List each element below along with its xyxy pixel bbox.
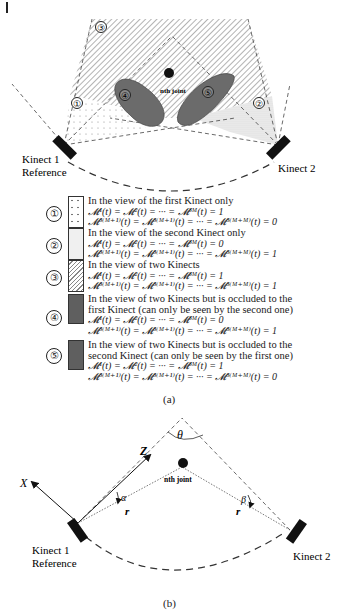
dark-swatch (68, 340, 84, 370)
legend-equation: 𝓜³⁽ᴹ⁺¹⁾(t) = 𝓜³⁽ᴹ⁺¹⁾(t) = ··· = 𝓜³⁽ᴹ⁺ᴹ⁾(… (88, 281, 277, 292)
kinect-2-label-b: Kinect 2 (293, 550, 331, 562)
legend-number: ③ (46, 270, 62, 286)
light-swatch (68, 228, 84, 260)
legend-equation: 𝓜³⁽ᴹ⁺¹⁾(t) = 𝓜³⁽ᴹ⁺¹⁾(t) = ··· = 𝓜³⁽ᴹ⁺ᴹ⁾(… (88, 326, 298, 337)
legend-description: In the view of the first Kinect only (88, 196, 277, 207)
legend-description: In the view of two Kinects but is occlud… (88, 294, 298, 315)
theta-label: θ (177, 428, 183, 442)
legend-item-5: ⑤ In the view of two Kinects but is occl… (46, 340, 336, 386)
region-3-label: ③ (97, 23, 105, 33)
region-1-label: ① (73, 99, 81, 109)
legend-item-1: ① In the view of the first Kinect only 𝓜… (46, 196, 336, 228)
region-2-label: ② (255, 99, 263, 109)
alpha-label: α (121, 492, 127, 503)
legend-item-3: ③ In the view of two Kinects 𝓜¹(t) = 𝓜²(… (46, 260, 336, 294)
kinect-arc-b (86, 533, 284, 570)
caption-a: (a) (163, 393, 175, 405)
region-4-label: ④ (121, 91, 129, 101)
figure-a-diagram: ③ ① ④ ⑤ ② nth joint Kinect 1 Reference K… (0, 0, 342, 195)
legend-number: ⑤ (46, 348, 62, 364)
joint-marker-b (178, 458, 188, 468)
kinect-arc (68, 162, 274, 191)
legend-number: ④ (46, 310, 62, 326)
legend: ① In the view of the first Kinect only 𝓜… (46, 196, 336, 386)
kinect-2-sensor-b (286, 519, 307, 544)
r-left-label: r (125, 505, 130, 517)
kinect-1-sensor-b (67, 518, 88, 543)
joint-marker (164, 68, 174, 78)
r-right-label: r (236, 505, 241, 517)
x-axis (32, 482, 78, 523)
dotted-swatch (68, 196, 84, 228)
legend-equation: 𝓜¹(t) = 𝓜²(t) = ··· = 𝓜³ᴹ(t) = 1 (88, 361, 298, 372)
legend-item-2: ② In the view of the second Kinect only … (46, 228, 336, 260)
legend-equation: 𝓜³⁽ᴹ⁺¹⁾(t) = 𝓜³⁽ᴹ⁺¹⁾(t) = ··· = 𝓜³⁽ᴹ⁺ᴹ⁾(… (88, 249, 277, 260)
figure-b-diagram: X Z θ α β r r nth joint Kinect 1 Referen… (0, 415, 342, 595)
z-axis (78, 455, 150, 523)
dark-swatch (68, 294, 84, 324)
x-axis-label: X (19, 476, 28, 490)
joint-label-b: nth joint (164, 475, 192, 484)
hatched-swatch (68, 260, 84, 292)
kinect-2-label-a: Kinect 2 (278, 162, 316, 174)
legend-equation: 𝓜¹(t) = 𝓜²(t) = ··· = 𝓜³ᴹ(t) = 0 (88, 315, 298, 326)
z-axis-label: Z (139, 444, 148, 458)
beta-label: β (240, 494, 246, 505)
kinect-1-label-b: Kinect 1 (32, 544, 70, 556)
region-5-label: ⑤ (204, 88, 212, 98)
legend-description: In the view of two Kinects but is occlud… (88, 340, 298, 361)
legend-equation: 𝓜³⁽ᴹ⁺¹⁾(t) = 𝓜³⁽ᴹ⁺¹⁾(t) = ··· = 𝓜³⁽ᴹ⁺ᴹ⁾(… (88, 372, 298, 383)
legend-number: ② (46, 238, 62, 254)
joint-label-a: nth joint (160, 87, 187, 95)
caption-b: (b) (163, 597, 176, 609)
kinect-1-reference-label-a: Reference (22, 166, 67, 178)
legend-equation: 𝓜³⁽ᴹ⁺¹⁾(t) = 𝓜³⁽ᴹ⁺¹⁾(t) = ··· = 𝓜³⁽ᴹ⁺ᴹ⁾(… (88, 217, 277, 228)
legend-description: In the view of the second Kinect only (88, 228, 277, 239)
kinect-1-label-a: Kinect 1 (22, 153, 60, 165)
legend-number: ① (46, 206, 62, 222)
legend-description: In the view of two Kinects (88, 260, 277, 271)
kinect-1-reference-label-b: Reference (32, 557, 77, 569)
legend-item-4: ④ In the view of two Kinects but is occl… (46, 294, 336, 340)
